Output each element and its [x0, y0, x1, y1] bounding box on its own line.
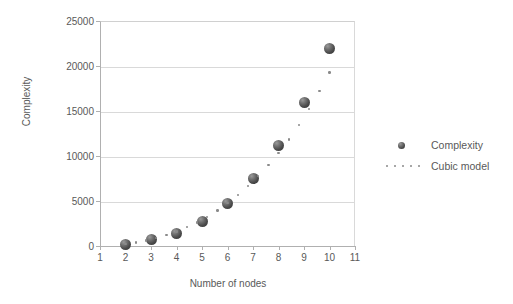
data-point[interactable]	[273, 140, 284, 151]
model-line-dot	[277, 152, 279, 154]
legend-key-dotted-line	[385, 156, 427, 177]
legend-label: Cubic model	[431, 160, 489, 173]
data-point[interactable]	[324, 43, 335, 54]
sphere-marker-icon	[398, 142, 405, 149]
model-line-dot	[175, 230, 177, 232]
model-line-dot	[145, 239, 147, 241]
model-line-dot	[186, 226, 188, 228]
data-point[interactable]	[146, 234, 157, 245]
model-line-dot	[267, 164, 269, 166]
dotted-line-icon	[418, 165, 420, 167]
model-line-dot	[206, 216, 208, 218]
model-line-dot	[328, 71, 330, 73]
model-line-dot	[135, 241, 137, 243]
model-line-dot	[247, 185, 249, 187]
model-line-dot	[216, 209, 218, 211]
dotted-line-icon	[394, 165, 396, 167]
dotted-line-icon	[410, 165, 412, 167]
model-line-dot	[237, 194, 239, 196]
legend-key-sphere	[385, 135, 427, 156]
model-line-dot	[318, 90, 320, 92]
chart-container: 25000 20000 15000 10000 5000 0 Complexit…	[0, 0, 513, 304]
legend-item-cubic-model[interactable]: Cubic model	[385, 156, 510, 177]
legend-item-complexity[interactable]: Complexity	[385, 135, 510, 156]
dotted-line-icon	[402, 165, 404, 167]
model-line-dot	[298, 124, 300, 126]
dotted-line-icon	[386, 165, 388, 167]
model-line-dot	[196, 221, 198, 223]
model-line-dot	[165, 234, 167, 236]
data-point[interactable]	[299, 97, 310, 108]
model-line-dot	[308, 108, 310, 110]
model-line-dot	[155, 237, 157, 239]
model-line-dot	[288, 138, 290, 140]
legend: Complexity Cubic model	[385, 135, 510, 177]
legend-label: Complexity	[431, 139, 483, 152]
